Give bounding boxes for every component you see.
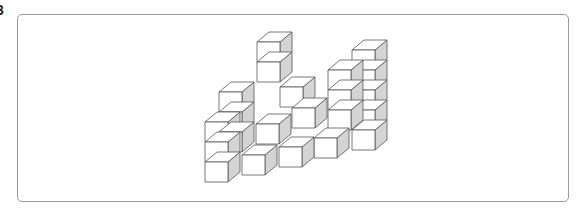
- cube-group: [205, 32, 387, 182]
- cube-front-face: [328, 110, 351, 130]
- cube-front-face: [292, 108, 315, 128]
- cube-front-face: [205, 162, 228, 182]
- cube-front-face: [352, 130, 375, 150]
- cube-structure-figure: [0, 0, 581, 214]
- cube-front-face: [242, 155, 265, 175]
- cube-front-face: [314, 138, 337, 158]
- cube-front-face: [279, 147, 302, 167]
- cube-front-face: [257, 62, 280, 82]
- cube-front-face: [256, 124, 279, 144]
